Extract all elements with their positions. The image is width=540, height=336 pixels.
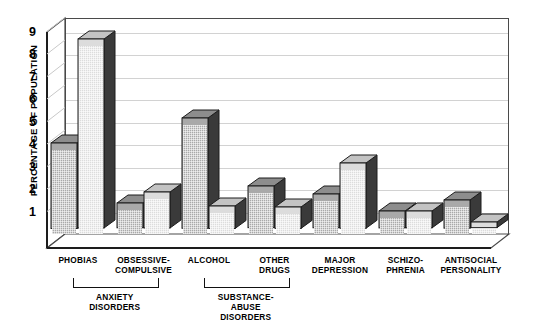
bar-fill — [118, 210, 142, 234]
y-tick-label-5: 5 — [20, 116, 36, 129]
bar-1-1 — [51, 141, 77, 235]
bar-6-2 — [406, 209, 432, 234]
bar-6-1 — [379, 209, 405, 234]
bar-fill — [445, 207, 469, 234]
group-bracket-1 — [73, 278, 159, 288]
group-label-2: SUBSTANCE-ABUSEDISORDERS — [174, 292, 318, 322]
group-label-line3: DISORDERS — [174, 312, 318, 322]
category-label-line2: PERSONALITY — [433, 265, 509, 275]
y-tick-label-3: 3 — [20, 161, 36, 174]
plot-area — [47, 18, 509, 248]
y-tick-label-1: 1 — [20, 206, 36, 219]
bar-fill — [183, 125, 207, 234]
bar-4-1 — [248, 184, 274, 234]
bar-fill — [341, 170, 365, 234]
chart-figure: PERCENTAGE OF POPULATION 987654321 PHOBI… — [0, 0, 540, 336]
bar-5-2 — [340, 161, 366, 234]
y-tick-label-8: 8 — [20, 48, 36, 61]
bar-7-1 — [444, 198, 470, 234]
bar-series-container — [47, 18, 509, 234]
y-tick-label-9: 9 — [20, 26, 36, 39]
bar-3-1 — [182, 116, 208, 234]
bar-fill — [210, 213, 234, 235]
y-tick-label-7: 7 — [20, 71, 36, 84]
bar-2-1 — [117, 201, 143, 234]
bar-fill — [314, 201, 338, 234]
category-label-line2: COMPULSIVE — [106, 265, 182, 275]
bar-fill — [276, 214, 300, 234]
bar-fill — [145, 199, 169, 234]
bar-fill — [407, 218, 431, 234]
bar-fill — [79, 46, 103, 234]
bar-7-2 — [471, 220, 497, 234]
group-label-line2: ABUSE — [174, 302, 318, 312]
bar-fill — [249, 193, 273, 234]
group-bracket-2 — [204, 278, 290, 288]
group-label-1: ANXIETYDISORDERS — [43, 292, 187, 312]
bar-3-2 — [209, 204, 235, 235]
group-label-line1: SUBSTANCE- — [174, 292, 318, 302]
bar-fill — [380, 218, 404, 234]
bar-2-2 — [144, 190, 170, 234]
category-label-7: ANTISOCIALPERSONALITY — [433, 255, 509, 275]
bar-fill — [472, 229, 496, 234]
bar-fill — [52, 150, 76, 235]
group-label-line1: ANXIETY — [43, 292, 187, 302]
group-label-line2: DISORDERS — [43, 302, 187, 312]
bar-4-2 — [275, 205, 301, 234]
y-tick-label-2: 2 — [20, 183, 36, 196]
category-label-line1: ANTISOCIAL — [433, 255, 509, 265]
y-tick-label-6: 6 — [20, 93, 36, 106]
bar-1-2 — [78, 37, 104, 234]
bar-5-1 — [313, 192, 339, 234]
y-tick-label-4: 4 — [20, 138, 36, 151]
